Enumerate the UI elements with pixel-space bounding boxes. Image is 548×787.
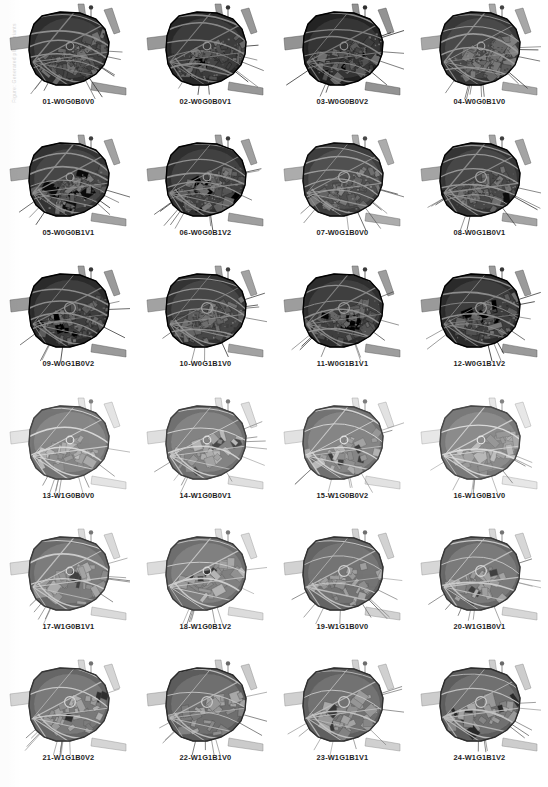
variant-cell-10[interactable]: 10-W0G1B1V0 [137,262,274,393]
variant-cell-08[interactable]: 08-W0G1B0V1 [411,131,548,262]
variant-cell-11[interactable]: 11-W0G1B1V1 [274,262,411,393]
variant-cell-09[interactable]: 09-W0G1B0V2 [0,262,137,393]
plan-thumbnail-10[interactable] [145,264,267,361]
variant-cell-22[interactable]: 22-W1G1B1V0 [137,656,274,787]
plan-thumbnail-22[interactable] [145,658,267,755]
plan-thumbnail-04[interactable] [419,2,541,99]
variant-cell-24[interactable]: 24-W1G1B1V2 [411,656,548,787]
plan-thumbnail-21[interactable] [8,658,130,755]
plan-thumbnail-15[interactable] [282,396,404,493]
variant-grid: 01-W0G0B0V002-W0G0B0V103-W0G0B0V204-W0G0… [0,0,548,787]
variant-cell-02[interactable]: 02-W0G0B0V1 [137,0,274,131]
plan-thumbnail-12[interactable] [419,264,541,361]
plan-thumbnail-09[interactable] [8,264,130,361]
plan-thumbnail-11[interactable] [282,264,404,361]
variant-cell-21[interactable]: 21-W1G1B0V2 [0,656,137,787]
variant-cell-17[interactable]: 17-W1G0B1V1 [0,525,137,656]
plan-thumbnail-05[interactable] [8,133,130,230]
variant-cell-04[interactable]: 04-W0G0B1V0 [411,0,548,131]
plan-thumbnail-18[interactable] [145,527,267,624]
plan-thumbnail-20[interactable] [419,527,541,624]
plan-thumbnail-16[interactable] [419,396,541,493]
plan-thumbnail-23[interactable] [282,658,404,755]
plan-thumbnail-06[interactable] [145,133,267,230]
variant-cell-19[interactable]: 19-W1G1B0V0 [274,525,411,656]
plan-thumbnail-13[interactable] [8,396,130,493]
variant-cell-20[interactable]: 20-W1G1B0V1 [411,525,548,656]
plan-thumbnail-19[interactable] [282,527,404,624]
plan-thumbnail-02[interactable] [145,2,267,99]
variant-cell-06[interactable]: 06-W0G0B1V2 [137,131,274,262]
variant-cell-12[interactable]: 12-W0G1B1V2 [411,262,548,393]
variant-cell-07[interactable]: 07-W0G1B0V0 [274,131,411,262]
plan-thumbnail-17[interactable] [8,527,130,624]
plan-thumbnail-01[interactable] [8,2,130,99]
plan-thumbnail-07[interactable] [282,133,404,230]
variant-cell-13[interactable]: 13-W1G0B0V0 [0,394,137,525]
variant-cell-18[interactable]: 18-W1G0B1V2 [137,525,274,656]
plan-thumbnail-24[interactable] [419,658,541,755]
variant-cell-05[interactable]: 05-W0G0B1V1 [0,131,137,262]
plan-thumbnail-03[interactable] [282,2,404,99]
variant-cell-23[interactable]: 23-W1G1B1V1 [274,656,411,787]
variant-cell-15[interactable]: 15-W1G0B0V2 [274,394,411,525]
variant-cell-16[interactable]: 16-W1G0B1V0 [411,394,548,525]
variant-cell-01[interactable]: 01-W0G0B0V0 [0,0,137,131]
variant-cell-14[interactable]: 14-W1G0B0V1 [137,394,274,525]
plan-thumbnail-08[interactable] [419,133,541,230]
plan-thumbnail-14[interactable] [145,396,267,493]
variant-cell-03[interactable]: 03-W0G0B0V2 [274,0,411,131]
